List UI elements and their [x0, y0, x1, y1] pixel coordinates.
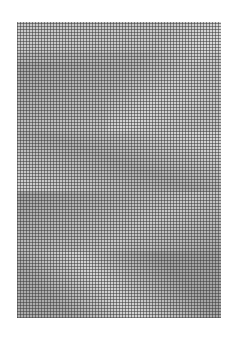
grid-artwork [17, 22, 221, 318]
grid-texture [17, 22, 221, 318]
